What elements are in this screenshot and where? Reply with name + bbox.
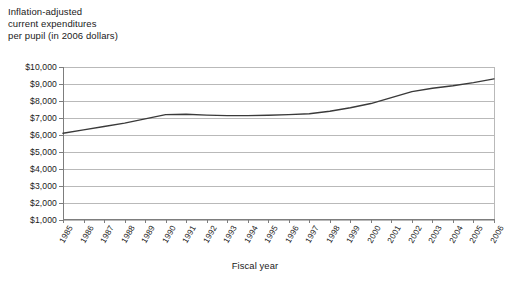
series-line bbox=[63, 67, 495, 220]
y-tick-label: $9,000 bbox=[30, 79, 57, 89]
x-tick-mark bbox=[289, 219, 290, 223]
y-tick-label: $7,000 bbox=[30, 113, 57, 123]
x-tick-mark bbox=[453, 219, 454, 223]
y-tick-label: $5,000 bbox=[30, 147, 57, 157]
x-axis-labels: 1985198619871988198919901991199219931994… bbox=[63, 224, 495, 256]
chart-title-line-1: Inflation-adjusted bbox=[8, 6, 118, 18]
line-chart: Inflation-adjusted current expenditures … bbox=[0, 0, 510, 285]
x-tick-mark bbox=[350, 219, 351, 223]
x-tick-mark bbox=[309, 219, 310, 223]
x-axis-title: Fiscal year bbox=[0, 260, 510, 271]
y-tick-label: $3,000 bbox=[30, 181, 57, 191]
x-tick-mark bbox=[371, 219, 372, 223]
plot-area bbox=[63, 67, 495, 220]
x-tick-mark bbox=[63, 219, 64, 223]
x-tick-mark bbox=[125, 219, 126, 223]
x-tick-mark bbox=[268, 219, 269, 223]
y-tick-label: $6,000 bbox=[30, 130, 57, 140]
x-tick-mark bbox=[186, 219, 187, 223]
y-tick-label: $10,000 bbox=[25, 62, 57, 72]
y-tick-label: $4,000 bbox=[30, 164, 57, 174]
x-tick-mark bbox=[145, 219, 146, 223]
y-tick-label: $2,000 bbox=[30, 198, 57, 208]
chart-title-line-3: per pupil (in 2006 dollars) bbox=[8, 30, 118, 42]
x-tick-mark bbox=[412, 219, 413, 223]
x-tick-mark bbox=[391, 219, 392, 223]
x-tick-mark bbox=[227, 219, 228, 223]
y-tick-label: $1,000 bbox=[30, 215, 57, 225]
x-tick-mark bbox=[84, 219, 85, 223]
y-tick-label: $8,000 bbox=[30, 96, 57, 106]
x-tick-mark bbox=[248, 219, 249, 223]
x-tick-mark bbox=[104, 219, 105, 223]
x-tick-mark bbox=[432, 219, 433, 223]
x-tick-label: 2006 bbox=[482, 224, 506, 256]
x-tick-mark bbox=[473, 219, 474, 223]
x-tick-mark bbox=[494, 219, 495, 223]
x-tick-mark bbox=[166, 219, 167, 223]
y-axis-labels: $1,000$2,000$3,000$4,000$5,000$6,000$7,0… bbox=[0, 67, 57, 220]
x-tick-mark bbox=[207, 219, 208, 223]
chart-title-line-2: current expenditures bbox=[8, 18, 118, 30]
chart-title: Inflation-adjusted current expenditures … bbox=[8, 6, 118, 43]
x-tick-mark bbox=[330, 219, 331, 223]
